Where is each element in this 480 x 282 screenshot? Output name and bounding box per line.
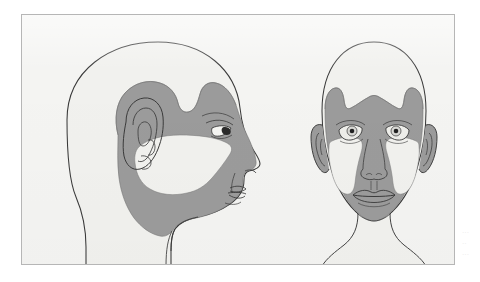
figure-panel	[21, 14, 455, 265]
frontal-left-eye-pupil	[350, 129, 355, 134]
edge-caption-line-2: ··	[462, 239, 480, 250]
frontal-view	[311, 42, 437, 265]
face-shading-figure	[22, 15, 455, 265]
frontal-right-eye-pupil	[394, 129, 399, 134]
cropped-edge-caption: ··· ·· ···	[462, 228, 480, 262]
edge-caption-line-1: ···	[462, 228, 480, 239]
edge-caption-line-3: ···	[462, 250, 480, 261]
illustration-page: ··· ·· ···	[0, 0, 480, 282]
lateral-profile-view	[67, 42, 260, 265]
